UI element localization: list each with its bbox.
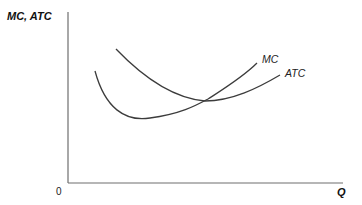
mc-curve-label: MC	[262, 53, 278, 65]
atc-curve	[116, 49, 280, 101]
origin-label: 0	[56, 186, 62, 197]
atc-curve-label: ATC	[285, 67, 305, 79]
mc-curve	[95, 63, 257, 119]
x-axis-label: Q	[337, 186, 346, 198]
y-axis-label: MC, ATC	[7, 10, 52, 22]
cost-curves-chart	[0, 0, 362, 205]
